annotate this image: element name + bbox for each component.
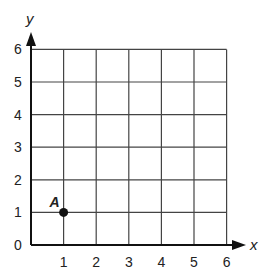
point-a-label: A [49, 194, 60, 210]
x-tick-label: 1 [60, 254, 68, 270]
y-tick-label: 4 [14, 107, 22, 123]
x-tick-labels: 123456 [60, 254, 231, 270]
x-axis-label: x [249, 236, 258, 253]
axes: x y [25, 10, 258, 253]
y-tick-label: 0 [14, 237, 22, 253]
coordinate-grid: x y 123456 0123456 A [0, 0, 270, 277]
x-tick-label: 6 [223, 254, 231, 270]
y-tick-label: 3 [14, 139, 22, 155]
x-tick-label: 4 [158, 254, 166, 270]
grid-lines [31, 49, 227, 245]
x-axis-arrow-icon [232, 240, 246, 250]
x-tick-label: 5 [190, 254, 198, 270]
data-points: A [49, 194, 69, 217]
y-axis-arrow-icon [26, 32, 36, 46]
y-tick-label: 1 [14, 204, 22, 220]
y-tick-label: 6 [14, 41, 22, 57]
y-tick-label: 5 [14, 74, 22, 90]
y-tick-label: 2 [14, 172, 22, 188]
x-tick-label: 2 [92, 254, 100, 270]
y-axis-label: y [25, 10, 35, 27]
x-tick-label: 3 [125, 254, 133, 270]
y-tick-labels: 0123456 [14, 41, 22, 253]
point-a-marker [59, 208, 68, 217]
